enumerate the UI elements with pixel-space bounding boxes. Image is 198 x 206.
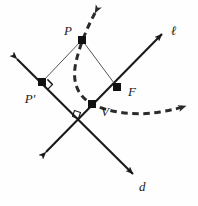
right-angle-marker-p-prime <box>48 80 53 90</box>
geometry-diagram: P P' F V ℓ d <box>0 0 198 206</box>
point-marker-p-prime <box>38 78 46 86</box>
label-line-d: d <box>139 179 146 194</box>
label-point-v: V <box>101 104 111 119</box>
axis-stroke <box>46 34 162 152</box>
label-line-ell: ℓ <box>171 23 177 38</box>
geometry-canvas: P P' F V ℓ d <box>0 0 198 206</box>
point-marker-p <box>78 36 86 44</box>
right-angle-marker-intersection <box>73 111 81 119</box>
label-point-p-prime: P' <box>24 91 36 106</box>
line-axis-ell <box>46 34 162 152</box>
right-angle-p-prime-edge <box>48 80 53 85</box>
label-point-p: P <box>63 23 72 38</box>
segment-p-to-f <box>82 40 117 87</box>
right-angle-intersection-glyph <box>73 111 81 119</box>
point-marker-v <box>88 100 96 108</box>
point-marker-f <box>113 83 121 91</box>
label-point-f: F <box>127 84 137 99</box>
